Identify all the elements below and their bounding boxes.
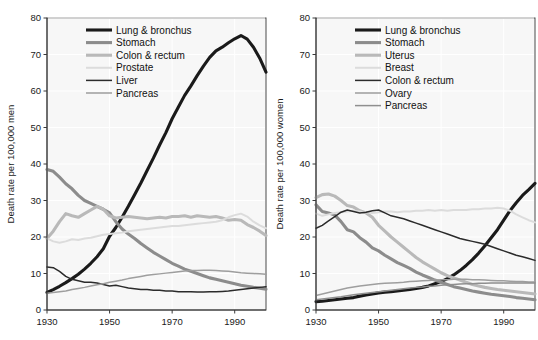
y-axis-title-men: Death rate per 100,000 men	[5, 105, 16, 224]
y-axis-title-women: Death rate per 100,000 women	[274, 99, 285, 230]
y-tick-label-70: 70	[30, 49, 41, 60]
y-tick-label-80: 80	[299, 12, 310, 23]
legend-label-pancreas: Pancreas	[385, 100, 427, 111]
x-tick-label-1950: 1950	[99, 316, 120, 327]
y-tick-label-20: 20	[299, 231, 310, 242]
x-tick-label-1970: 1970	[431, 316, 452, 327]
legend-label-stomach: Stomach	[116, 37, 155, 48]
y-tick-label-10: 10	[30, 268, 41, 279]
chart-panel-men: 010203040506070801930195019701990Death r…	[0, 0, 269, 340]
legend-label-stomach: Stomach	[385, 37, 424, 48]
y-tick-label-60: 60	[299, 85, 310, 96]
figure-root: 010203040506070801930195019701990Death r…	[0, 0, 538, 340]
y-tick-label-60: 60	[30, 85, 41, 96]
legend-label-colon-rectum: Colon & rectum	[385, 75, 454, 86]
chart-svg-men: 010203040506070801930195019701990Death r…	[0, 0, 269, 340]
x-tick-label-1990: 1990	[493, 316, 514, 327]
y-tick-label-20: 20	[30, 231, 41, 242]
legend-label-liver: Liver	[116, 75, 138, 86]
y-tick-label-0: 0	[36, 304, 41, 315]
y-tick-label-0: 0	[305, 304, 310, 315]
y-tick-label-80: 80	[30, 12, 41, 23]
legend-label-lung-bronchus: Lung & bronchus	[116, 25, 192, 36]
x-tick-label-1950: 1950	[368, 316, 389, 327]
legend-label-colon-rectum: Colon & rectum	[116, 50, 185, 61]
y-tick-label-70: 70	[299, 49, 310, 60]
legend-label-uterus: Uterus	[385, 50, 414, 61]
legend-label-ovary: Ovary	[385, 88, 412, 99]
y-tick-label-50: 50	[299, 122, 310, 133]
x-tick-label-1970: 1970	[162, 316, 183, 327]
x-tick-label-1930: 1930	[305, 316, 326, 327]
y-tick-label-40: 40	[30, 158, 41, 169]
x-tick-label-1990: 1990	[224, 316, 245, 327]
legend-label-pancreas: Pancreas	[116, 88, 158, 99]
y-tick-label-40: 40	[299, 158, 310, 169]
legend-label-prostate: Prostate	[116, 62, 154, 73]
y-tick-label-30: 30	[299, 195, 310, 206]
y-tick-label-30: 30	[30, 195, 41, 206]
y-tick-label-50: 50	[30, 122, 41, 133]
legend-label-lung-bronchus: Lung & bronchus	[385, 25, 461, 36]
chart-panel-women: 010203040506070801930195019701990Death r…	[269, 0, 538, 340]
legend-label-breast: Breast	[385, 62, 414, 73]
x-tick-label-1930: 1930	[36, 316, 57, 327]
y-tick-label-10: 10	[299, 268, 310, 279]
chart-svg-women: 010203040506070801930195019701990Death r…	[269, 0, 538, 340]
